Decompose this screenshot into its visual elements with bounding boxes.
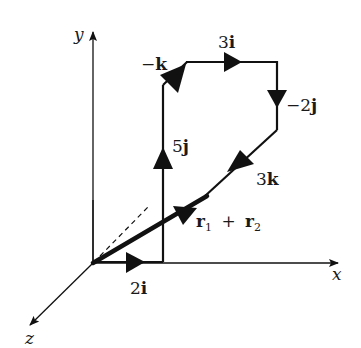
label-neg-k-coef: − xyxy=(141,54,155,74)
dashed-projection-line xyxy=(100,205,150,256)
label-2i-coef: 2 xyxy=(130,278,141,298)
label-neg-k: −k xyxy=(141,56,167,73)
arrowhead-2i-icon xyxy=(126,252,145,273)
arrowhead-3k-icon xyxy=(227,150,254,172)
label-3i: 3i xyxy=(218,34,235,51)
label-2i: 2i xyxy=(130,280,147,297)
arrowhead-3i-icon xyxy=(224,52,242,72)
label-neg-k-unit: k xyxy=(155,54,167,74)
arrowheads xyxy=(126,52,287,273)
label-r2: r xyxy=(245,211,254,231)
diagram-canvas xyxy=(0,0,361,348)
label-r2-subscript: 2 xyxy=(254,221,261,234)
axes xyxy=(30,32,338,325)
label-3i-unit: i xyxy=(229,32,235,52)
label-5j-coef: 5 xyxy=(172,136,183,156)
label-3k-unit: k xyxy=(267,169,279,189)
vector-diagram: y x z 2i 5j −k 3i −2j 3k r1 + r2 xyxy=(0,0,361,348)
label-resultant: r1 + r2 xyxy=(196,213,261,233)
label-r1-subscript: 1 xyxy=(205,221,212,234)
label-3i-coef: 3 xyxy=(218,32,229,52)
label-plus: + xyxy=(221,211,235,231)
label-r1: r xyxy=(196,211,205,231)
label-neg-2j-unit: j xyxy=(311,95,317,115)
arrowhead-neg-2j-icon xyxy=(267,90,287,108)
label-neg-2j: −2j xyxy=(286,97,317,114)
label-neg-2j-coef: −2 xyxy=(286,95,311,115)
z-axis-label: z xyxy=(25,330,34,347)
vector-resultant xyxy=(93,196,207,263)
label-2i-unit: i xyxy=(141,278,147,298)
z-axis xyxy=(30,263,93,325)
label-5j-unit: j xyxy=(183,136,189,156)
label-5j: 5j xyxy=(172,138,189,155)
x-axis-label: x xyxy=(332,266,342,283)
y-axis-label: y xyxy=(74,26,84,43)
arrowhead-5j-icon xyxy=(153,147,173,169)
label-3k: 3k xyxy=(256,171,279,188)
label-3k-coef: 3 xyxy=(256,169,267,189)
